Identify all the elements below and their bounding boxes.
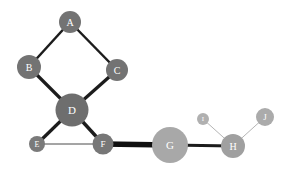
graph-node-e[interactable]: E: [29, 136, 45, 152]
node-circle-h[interactable]: [221, 134, 245, 158]
graph-node-b[interactable]: B: [17, 55, 41, 79]
node-circle-b[interactable]: [17, 55, 41, 79]
node-circle-j[interactable]: [256, 108, 274, 126]
graph-node-f[interactable]: F: [93, 134, 114, 155]
graph-node-a[interactable]: A: [59, 11, 81, 33]
node-circle-e[interactable]: [29, 136, 45, 152]
node-circle-a[interactable]: [59, 11, 81, 33]
network-graph-svg: ABCDEFGHIJ: [0, 0, 292, 172]
graph-node-i[interactable]: I: [197, 113, 209, 125]
node-layer: ABCDEFGHIJ: [17, 11, 274, 163]
node-circle-i[interactable]: [197, 113, 209, 125]
graph-node-j[interactable]: J: [256, 108, 274, 126]
node-circle-c[interactable]: [106, 59, 128, 81]
node-circle-g[interactable]: [152, 127, 188, 163]
node-circle-d[interactable]: [56, 94, 89, 127]
graph-node-c[interactable]: C: [106, 59, 128, 81]
network-graph-canvas: ABCDEFGHIJ: [0, 0, 292, 172]
graph-node-g[interactable]: G: [152, 127, 188, 163]
edge-layer: [29, 22, 265, 146]
graph-node-d[interactable]: D: [56, 94, 89, 127]
node-circle-f[interactable]: [93, 134, 114, 155]
graph-node-h[interactable]: H: [221, 134, 245, 158]
